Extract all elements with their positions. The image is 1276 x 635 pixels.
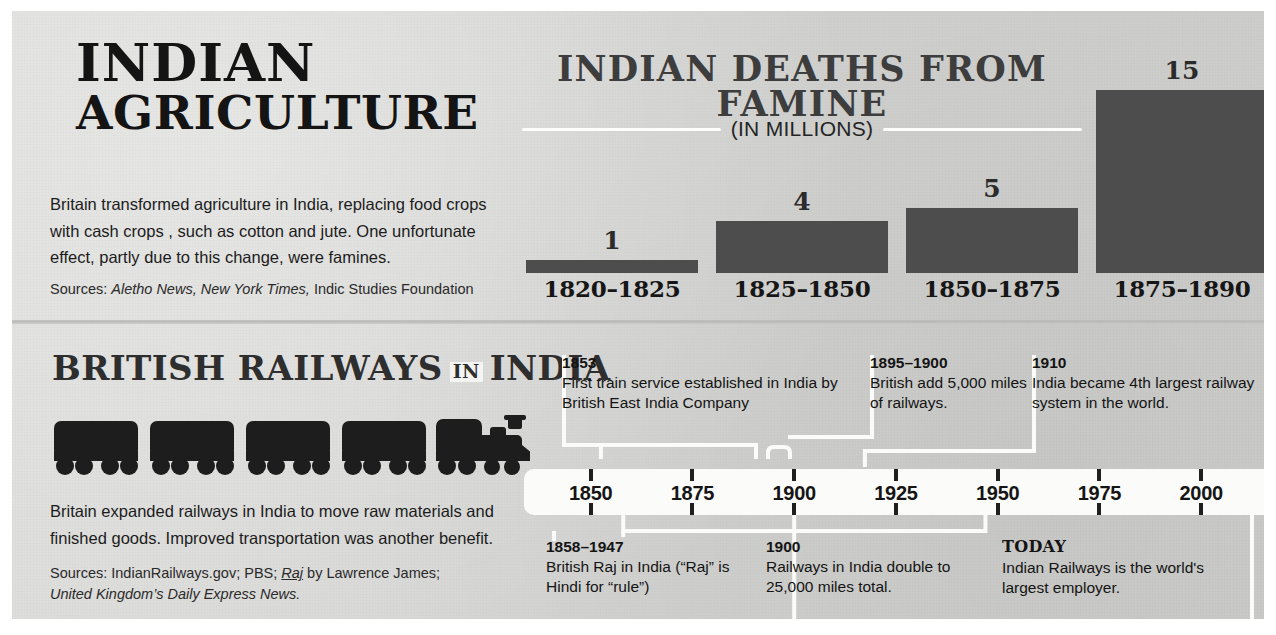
agriculture-title-line2: AGRICULTURE — [76, 89, 536, 137]
timeline-note: 1895–1900British add 5,000 miles of rail… — [870, 353, 1035, 413]
bar-category-label: 1875–1890 — [1087, 275, 1264, 305]
timeline-tick — [589, 469, 593, 481]
train-cars-icon — [50, 415, 530, 477]
railways-sources-italic-line: United Kingdom’s Daily Express News. — [50, 586, 300, 602]
railways-sources-mid: by Lawrence James; — [303, 565, 440, 581]
timeline-note-text: British Raj in India (“Raj” is Hindi for… — [546, 557, 756, 597]
leader-line — [623, 515, 985, 531]
bar-column: 15 — [1087, 58, 1264, 273]
timeline-note: 1853First train service established in I… — [562, 353, 862, 413]
timeline-note: TODAYIndian Railways is the world's larg… — [1002, 537, 1242, 598]
railways-sources-prefix: Sources: IndianRailways.gov; PBS; — [50, 565, 281, 581]
timeline-tick — [996, 469, 1000, 481]
timeline-tick — [792, 469, 796, 481]
timeline-note-year: 1853 — [562, 353, 862, 372]
bar-rect — [1096, 90, 1264, 273]
timeline-note: 1858–1947British Raj in India (“Raj” is … — [546, 537, 756, 597]
timeline-note-text: British add 5,000 miles of railways. — [870, 373, 1035, 413]
timeline-note-year: 1858–1947 — [546, 537, 756, 556]
timeline-axis: 1850187519001925195019752000 — [524, 469, 1264, 515]
railways-sources: Sources: IndianRailways.gov; PBS; Raj by… — [50, 563, 540, 604]
timeline-tick-label: 1875 — [671, 482, 714, 505]
timeline-note-text: First train service established in India… — [562, 373, 862, 413]
bar-rect — [906, 208, 1078, 273]
agriculture-body: Britain transformed agriculture in India… — [50, 191, 520, 271]
timeline-tick — [1199, 469, 1203, 481]
timeline-tick-label: 2000 — [1180, 482, 1223, 505]
bar-rect — [716, 221, 888, 273]
bar-category-label: 1850–1875 — [897, 275, 1087, 305]
timeline-tick-label: 1850 — [569, 482, 612, 505]
timeline-note-year: 1900 — [766, 537, 996, 556]
railways-title-part1: BRITISH RAILWAYS — [52, 348, 443, 388]
agriculture-sources: Sources: Aletho News, New York Times, In… — [50, 279, 540, 299]
bar-category-label: 1825–1850 — [707, 275, 897, 305]
timeline-tick-label: 1900 — [773, 482, 816, 505]
bar-group: 14515 — [517, 58, 1264, 273]
timeline-tick-label: 1925 — [874, 482, 917, 505]
bar-value-label: 4 — [793, 189, 810, 214]
timeline-tick-label: 1950 — [976, 482, 1019, 505]
bar-rect — [526, 260, 698, 273]
timeline-tick — [894, 469, 898, 481]
timeline-note: 1910India became 4th largest railway sys… — [1032, 353, 1264, 413]
timeline-note-year: 1910 — [1032, 353, 1264, 372]
leader-line — [768, 447, 790, 459]
infographic-page: INDIAN AGRICULTURE Britain transformed a… — [0, 0, 1276, 635]
timeline-note-text: Indian Railways is the world's largest e… — [1002, 558, 1242, 598]
section-divider — [12, 320, 1264, 324]
timeline-note-year: TODAY — [1002, 537, 1242, 557]
agriculture-title-line1: INDIAN — [76, 31, 316, 93]
bar-column: 1 — [517, 58, 707, 273]
bar-column: 5 — [897, 58, 1087, 273]
agriculture-sources-italic: Aletho News, New York Times, — [111, 281, 310, 297]
railways-body: Britain expanded railways in India to mo… — [50, 498, 530, 551]
bar-value-label: 1 — [603, 228, 620, 253]
timeline-note-text: Railways in India double to 25,000 miles… — [766, 557, 996, 597]
agriculture-sources-rest: Indic Studies Foundation — [310, 281, 474, 297]
bar-value-label: 5 — [983, 176, 1000, 201]
timeline-tick — [690, 469, 694, 481]
timeline-note: 1900Railways in India double to 25,000 m… — [766, 537, 996, 597]
bar-category-label: 1820–1825 — [517, 275, 707, 305]
timeline-tick — [1097, 469, 1101, 481]
content-panel: INDIAN AGRICULTURE Britain transformed a… — [12, 11, 1264, 619]
railways-sources-raj: Raj — [281, 565, 303, 581]
timeline-note-year: 1895–1900 — [870, 353, 1035, 372]
bar-value-label: 15 — [1165, 58, 1200, 83]
famine-bar-chart: 14515 1820–18251825–18501850–18751875–18… — [517, 41, 1264, 309]
agriculture-title: INDIAN AGRICULTURE — [76, 35, 536, 137]
bar-category-labels: 1820–18251825–18501850–18751875–1890 — [517, 275, 1264, 305]
agriculture-sources-prefix: Sources: — [50, 281, 111, 297]
timeline-note-text: India became 4th largest railway system … — [1032, 373, 1264, 413]
railways-title-in: IN — [450, 362, 483, 382]
timeline-tick-label: 1975 — [1078, 482, 1121, 505]
railway-timeline: 1850187519001925195019752000 1853First t… — [524, 341, 1264, 619]
bar-column: 4 — [707, 58, 897, 273]
